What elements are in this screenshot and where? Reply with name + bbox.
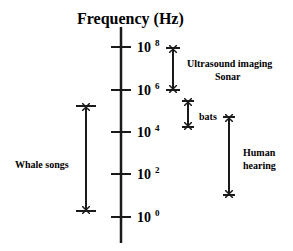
frequency-diagram: Frequency (Hz) 108 106 104 102 100 Ultra… bbox=[0, 0, 293, 251]
range-human-hearing bbox=[223, 117, 235, 195]
tick-label-10e0: 100 bbox=[137, 208, 160, 225]
label-whale-songs: Whale songs bbox=[15, 159, 69, 170]
tick-label-10e6: 106 bbox=[137, 81, 160, 98]
diagram-title: Frequency (Hz) bbox=[77, 10, 184, 28]
label-sonar: Sonar bbox=[215, 71, 241, 82]
label-human: Human bbox=[243, 147, 276, 158]
tick-label-10e4: 104 bbox=[137, 123, 160, 140]
range-ultrasound bbox=[166, 48, 180, 90]
tick-label-10e2: 102 bbox=[137, 165, 160, 182]
label-hearing: hearing bbox=[243, 160, 276, 171]
tick-label-10e8: 108 bbox=[137, 38, 160, 55]
range-bats bbox=[182, 101, 194, 127]
label-bats: bats bbox=[199, 111, 217, 122]
label-ultrasound: Ultrasound imaging bbox=[187, 58, 272, 69]
range-whale-songs bbox=[76, 106, 96, 211]
